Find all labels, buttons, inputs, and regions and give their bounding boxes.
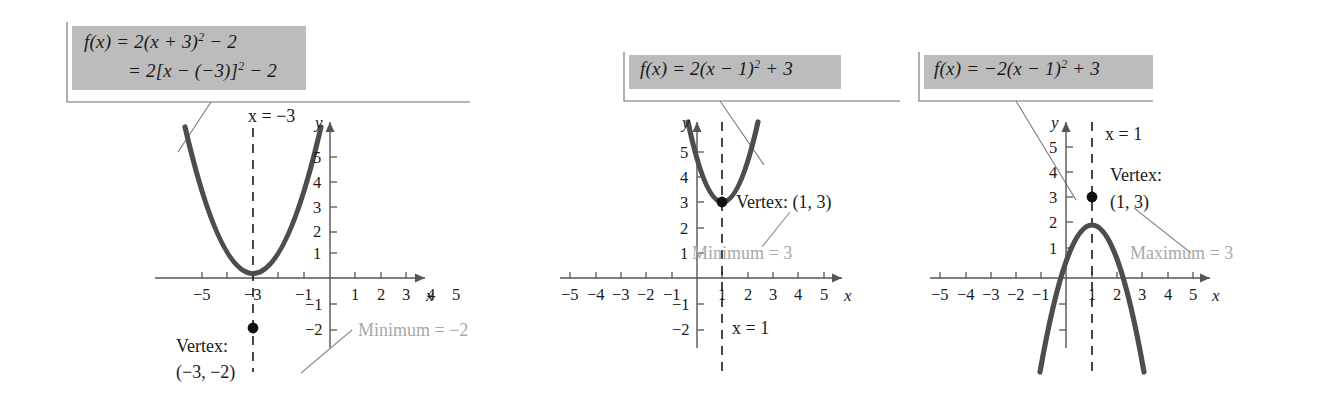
panel1-vertex-label-line2: (−3, −2): [176, 362, 235, 383]
panel1-xtick-5: 5: [452, 285, 460, 305]
panel1-xtick-1: 1: [351, 285, 359, 305]
panel2-vertex-label-line1: Vertex: (1, 3): [736, 192, 831, 213]
panel1-ytick--2: −2: [305, 320, 323, 340]
panel3-extremum-label: Maximum = 3: [1130, 243, 1233, 264]
panel1-x-axis-label: x: [426, 286, 434, 306]
panel2-xtick--5: −5: [561, 285, 579, 305]
panel1-extremum-label: Minimum = −2: [358, 320, 468, 341]
panel1-ytick-3: 3: [313, 198, 321, 218]
panel2-ytick-5: 5: [680, 143, 688, 163]
panel2-ytick--1: −1: [672, 295, 690, 315]
panel2-x-axis-label: x: [844, 286, 852, 306]
panel3-xtick-4: 4: [1164, 285, 1172, 305]
panel3-x-axis-label: x: [1212, 286, 1220, 306]
panel1-xtick--5: −5: [193, 285, 211, 305]
panel2-xtick-4: 4: [794, 285, 802, 305]
panel3-vertex-label-line2: (1, 3): [1110, 192, 1149, 213]
panel3-xtick-2: 2: [1113, 285, 1121, 305]
panel2-ytick-1: 1: [680, 244, 688, 264]
panel2-ytick--2: −2: [672, 320, 690, 340]
panel1-ytick-1: 1: [313, 244, 321, 264]
panel2-ytick-3: 3: [680, 193, 688, 213]
panel2-xtick-5: 5: [820, 285, 828, 305]
panel-3-graph: f(x) = −2(x − 1)2 + 3: [900, 0, 1329, 400]
panel3-ytick-1: 1: [1049, 239, 1057, 259]
panel1-axis-of-symmetry-label: x = −3: [248, 106, 295, 127]
panel3-xtick-3: 3: [1138, 285, 1146, 305]
panel2-ytick-4: 4: [680, 168, 688, 188]
panel1-xtick-3: 3: [402, 285, 410, 305]
panel3-xtick-1: 1: [1088, 285, 1096, 305]
panel1-ytick-2: 2: [313, 222, 321, 242]
panel3-xtick--5: −5: [931, 285, 949, 305]
panel1-y-axis-label: y: [315, 113, 323, 133]
panel2-xtick-3: 3: [769, 285, 777, 305]
panel1-ytick-5: 5: [313, 148, 321, 168]
panel1-xtick-2: 2: [377, 285, 385, 305]
panel3-vertex-label-line1: Vertex:: [1110, 165, 1162, 186]
panel1-vertex-label-line1: Vertex:: [176, 336, 228, 357]
panel2-y-axis-label: y: [682, 113, 690, 133]
panel3-ytick-3: 3: [1049, 188, 1057, 208]
panel3-ytick-5: 5: [1049, 138, 1057, 158]
panel-2-graph: f(x) = 2(x − 1)2 + 3: [470, 0, 900, 400]
panel3-ytick-2: 2: [1049, 213, 1057, 233]
panel3-ytick-4: 4: [1049, 163, 1057, 183]
panel2-axis-of-symmetry-label: x = 1: [732, 318, 769, 339]
panel1-ytick-4: 4: [313, 173, 321, 193]
panel3-xtick--1: −1: [1032, 285, 1050, 305]
panel3-axis-of-symmetry-label: x = 1: [1105, 124, 1142, 145]
panel-1-graph: f(x) = 2(x + 3)2 − 2 = 2[x − (−3)]2 − 2: [0, 0, 470, 400]
panel3-xtick--4: −4: [957, 285, 975, 305]
panel2-xtick-1: 1: [718, 285, 726, 305]
panel3-xtick-5: 5: [1189, 285, 1197, 305]
panel2-extremum-label: Minimum = 3: [692, 243, 792, 264]
panel3-xtick--3: −3: [982, 285, 1000, 305]
panel2-xtick-2: 2: [744, 285, 752, 305]
panel1-ytick--1: −1: [305, 295, 323, 315]
panel3-y-axis-label: y: [1051, 113, 1059, 133]
panel2-xtick--4: −4: [587, 285, 605, 305]
panel1-xtick--3: −3: [244, 285, 262, 305]
panel2-ytick-2: 2: [680, 219, 688, 239]
panel2-xtick--2: −2: [637, 285, 655, 305]
panel3-xtick--2: −2: [1007, 285, 1025, 305]
panel2-xtick--3: −3: [612, 285, 630, 305]
